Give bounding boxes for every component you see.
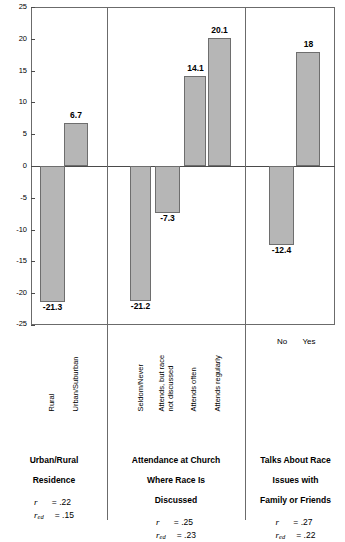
caption-line: Talks About Race: [260, 455, 330, 465]
bar-yes: [296, 52, 320, 166]
bar-value-urban-suburban: 6.7: [57, 111, 95, 120]
y-tick-label-10: 10: [0, 98, 27, 106]
caption-urban-rural: Urban/Rural Residence r = .22 red= .15: [4, 445, 104, 522]
stat-equals: =: [166, 530, 182, 541]
y-tick-mark: [31, 134, 35, 135]
y-tick-label-m25: -25: [0, 320, 27, 328]
stat-equals: =: [44, 510, 60, 521]
stat-r: r = .22: [34, 497, 74, 510]
y-tick-label-m20: -20: [0, 289, 27, 297]
x-label-attends-not-discussed-line2: not discussed: [167, 366, 176, 412]
stat-equals: =: [282, 517, 298, 528]
bar-value-rural: -21.3: [33, 303, 72, 312]
y-tick-mark: [31, 39, 35, 40]
y-tick-mark: [31, 230, 35, 231]
x-label-urban-suburban: Urban/Suburban: [72, 356, 81, 411]
bar-rural: [40, 166, 65, 302]
y-tick-label-m15: -15: [0, 257, 27, 265]
y-tick-label-m10: -10: [0, 226, 27, 234]
stat-value: .27: [301, 517, 313, 527]
stat-equals: =: [285, 530, 301, 541]
y-tick-label-25: 25: [0, 3, 27, 11]
caption-separator-2: [245, 412, 246, 520]
bar-value-seldom-never: -21.2: [121, 302, 160, 311]
y-tick-label-m5: -5: [0, 194, 27, 202]
y-tick-mark: [31, 293, 35, 294]
caption-line: Issues with: [273, 475, 319, 485]
y-tick-label-15: 15: [0, 67, 27, 75]
bar-attends-regularly: [208, 38, 231, 166]
caption-stats-talks-about-race: r = .27 red= .22: [276, 517, 316, 542]
bar-attends-not-discussed: [155, 166, 180, 213]
y-tick-mark: [31, 198, 35, 199]
stat-value: .23: [184, 530, 196, 540]
bar-attends-often: [184, 76, 206, 166]
stat-r-ed: red= .22: [276, 530, 316, 542]
caption-line: Residence: [33, 475, 76, 485]
bar-value-yes: 18: [289, 40, 328, 49]
caption-line: Urban/Rural: [30, 455, 79, 465]
caption-line: Where Race Is: [147, 475, 205, 485]
stat-r-ed: red= .23: [156, 530, 196, 542]
x-label-rural: Rural: [48, 394, 57, 412]
stat-equals: =: [163, 517, 179, 528]
bar-urban-suburban: [64, 123, 88, 166]
stat-r: r = .27: [276, 517, 316, 530]
caption-title-church-attendance: Attendance at Church Where Race Is Discu…: [110, 445, 242, 505]
y-tick-label-0: 0: [0, 162, 27, 170]
bar-value-no: -12.4: [262, 246, 301, 255]
stat-equals: =: [41, 497, 57, 508]
stat-value: .15: [62, 510, 74, 520]
bar-value-attends-not-discussed: -7.3: [148, 214, 187, 223]
caption-line: Family or Friends: [260, 495, 331, 505]
panel-separator-2: [245, 7, 246, 412]
y-tick-mark: [31, 7, 35, 8]
caption-talks-about-race: Talks About Race Issues with Family or F…: [248, 445, 343, 542]
x-label-seldom-never: Seldom/Never: [137, 364, 146, 412]
y-tick-label-5: 5: [0, 130, 27, 138]
stat-value: .22: [59, 497, 71, 507]
y-tick-mark: [31, 71, 35, 72]
caption-church-attendance: Attendance at Church Where Race Is Discu…: [110, 445, 242, 542]
y-tick-mark: [31, 325, 35, 326]
stat-r-ed: red= .15: [34, 510, 74, 523]
x-label-attends-often: Attends often: [190, 367, 199, 411]
x-label-yes: Yes: [289, 337, 329, 346]
bar-seldom-never: [130, 166, 151, 301]
caption-separator-1: [107, 412, 108, 520]
caption-title-urban-rural: Urban/Rural Residence: [4, 445, 104, 485]
stat-value: .25: [181, 517, 193, 527]
caption-title-talks-about-race: Talks About Race Issues with Family or F…: [248, 445, 343, 505]
stat-r: r = .25: [156, 517, 196, 530]
y-tick-mark: [31, 261, 35, 262]
x-label-attends-regularly: Attends regularly: [214, 355, 223, 411]
bar-value-attends-regularly: 20.1: [200, 26, 239, 35]
stat-value: .22: [304, 530, 316, 540]
y-tick-label-20: 20: [0, 35, 27, 43]
bar-no: [269, 166, 294, 245]
caption-stats-urban-rural: r = .22 red= .15: [34, 497, 74, 522]
y-tick-mark: [31, 102, 35, 103]
caption-line: Attendance at Church: [132, 455, 220, 465]
panel-separator-1: [107, 7, 108, 412]
caption-line: Discussed: [155, 495, 198, 505]
caption-stats-church-attendance: r = .25 red= .23: [156, 517, 196, 542]
